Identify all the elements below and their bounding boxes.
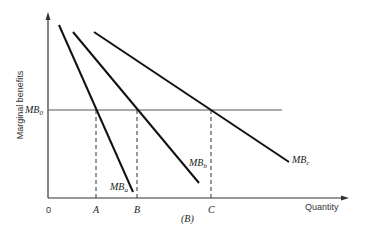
chart-canvas: Marginal benefits MB0 0 A B C MBa MBb MB… — [0, 0, 366, 234]
mbb-label: MBb — [188, 157, 207, 170]
mb0-label: MB0 — [24, 104, 43, 117]
x-axis-label: Quantity — [305, 202, 339, 212]
y-axis-label: Marginal benefits — [15, 70, 25, 139]
y-axis-arrow-icon — [46, 12, 51, 20]
origin-label: 0 — [46, 205, 51, 215]
figure-caption: (B) — [181, 213, 194, 225]
x-axis-arrow-icon — [341, 196, 349, 201]
mbc-label: MBc — [291, 154, 310, 167]
tick-a: A — [92, 204, 100, 215]
tick-c: C — [208, 204, 215, 215]
curve-mbc — [94, 32, 289, 162]
tick-b: B — [134, 204, 140, 215]
mba-label: MBa — [109, 181, 128, 194]
curve-mbb — [73, 32, 199, 183]
